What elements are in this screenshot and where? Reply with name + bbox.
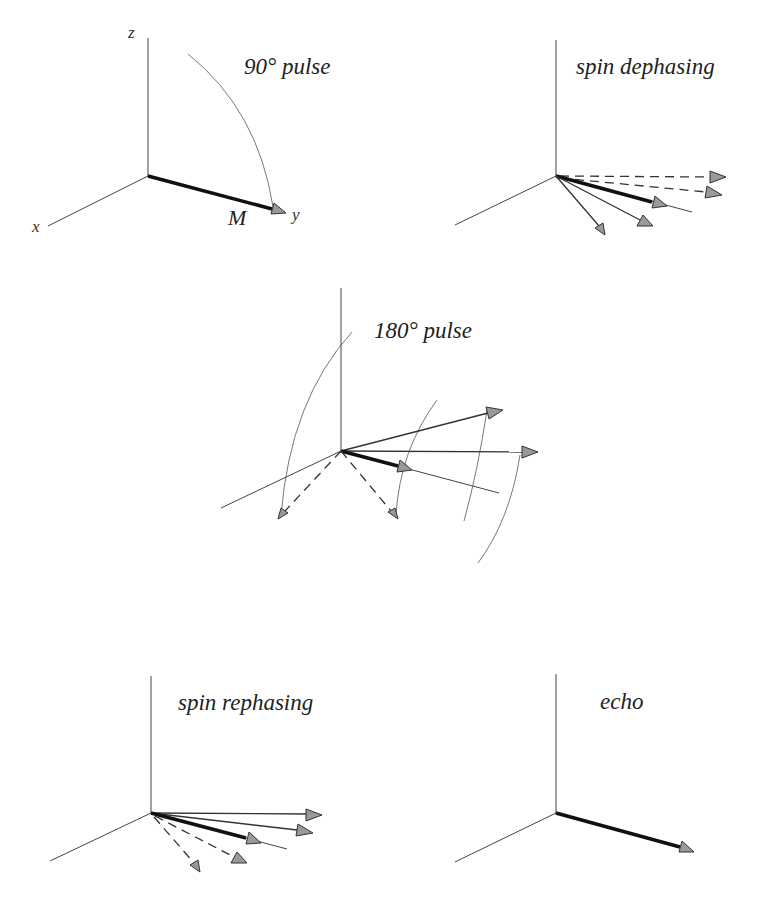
panel-spin-dephasing: spin dephasing [455,40,726,235]
arrowhead-icon [522,446,538,458]
flipped-vector-1 [341,413,488,451]
arrowhead-icon [397,460,412,472]
arrowhead-icon [652,196,667,208]
spin-echo-figure: z x y M 90° pulse spin dephasing [0,0,769,901]
rotation-arc-1 [396,400,437,515]
magnetization-label: M [227,205,248,230]
arrowhead-icon [637,215,653,226]
panel-spin-rephasing: spin rephasing [50,676,322,872]
panel-title: spin dephasing [576,54,715,79]
arrowhead-icon [296,824,313,836]
magnetization-vector [148,176,272,209]
x-axis [48,176,148,226]
pre-flip-vector-dashed-2 [285,451,341,511]
x-axis [221,451,341,508]
panel-90-pulse: z x y M 90° pulse [31,23,331,236]
net-magnetization-vector [341,451,398,466]
net-magnetization-vector [151,813,246,838]
panel-title: 90° pulse [244,54,331,79]
echo-magnetization-vector [556,813,680,847]
panel-echo: echo [455,674,694,862]
dephasing-vector-thin-1 [556,176,640,220]
z-axis-label: z [127,23,135,42]
panel-title: 180° pulse [374,318,472,343]
arrowhead-icon [679,841,694,852]
arrowhead-icon [306,809,322,821]
x-axis [455,176,556,225]
flipped-vector-2 [341,451,522,452]
pre-flip-vector-dashed-1 [341,451,391,511]
arrowhead-icon [710,171,726,183]
panel-title: echo [600,689,643,714]
rotation-arc-3 [478,455,520,563]
arrowhead-icon [231,852,247,863]
dephasing-vector-dashed-1 [560,176,710,177]
arrowhead-icon [246,832,261,844]
y-axis-label: y [290,205,300,224]
arrowhead-icon [271,203,286,214]
arrowhead-icon [486,407,503,419]
arrowhead-icon [705,186,722,198]
rephasing-vector-dashed-1 [155,816,234,857]
rephasing-vector-thin-1 [151,813,306,814]
x-axis [455,813,556,862]
arrowhead-icon [190,860,200,872]
panel-180-pulse: 180° pulse [221,288,538,563]
arrowhead-icon [595,223,605,235]
x-axis-label: x [31,217,40,236]
x-axis [50,813,151,861]
rotation-arc-2 [464,410,487,521]
panel-title: spin rephasing [178,690,313,715]
net-magnetization-vector [556,176,652,202]
rephasing-vector-thin-2 [151,813,297,830]
